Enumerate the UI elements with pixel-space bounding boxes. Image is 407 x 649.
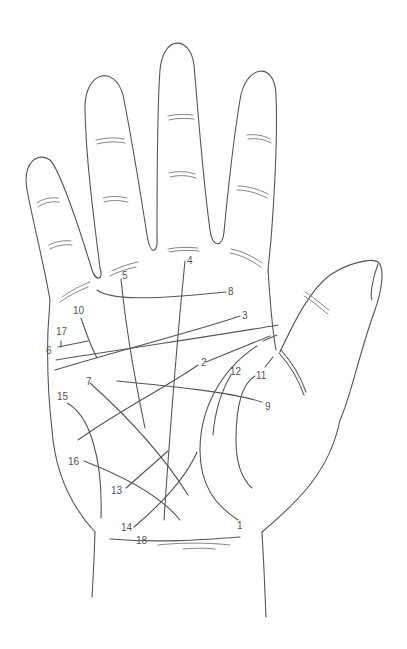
label-5: 5	[122, 271, 128, 281]
label-10: 10	[73, 306, 84, 316]
label-14: 14	[121, 523, 132, 533]
label-11: 11	[256, 371, 266, 381]
label-1: 1	[237, 521, 243, 531]
label-7: 7	[86, 377, 92, 387]
label-2: 2	[201, 358, 207, 368]
label-16: 16	[68, 457, 79, 467]
label-15: 15	[57, 392, 68, 402]
label-3: 3	[242, 311, 248, 321]
label-18: 18	[136, 536, 147, 546]
label-8: 8	[228, 287, 234, 297]
label-17: 17	[56, 327, 67, 337]
label-4: 4	[187, 256, 193, 266]
label-13: 13	[111, 486, 122, 496]
label-12: 12	[230, 367, 241, 377]
hand-outline	[26, 43, 382, 617]
label-6: 6	[46, 346, 52, 356]
hand-outline-icon	[0, 0, 407, 649]
palm-diagram: 1 2 3 4 5 6 7 8 9 10 11 12 13 14 15 16 1…	[0, 0, 407, 649]
label-9: 9	[265, 402, 271, 412]
